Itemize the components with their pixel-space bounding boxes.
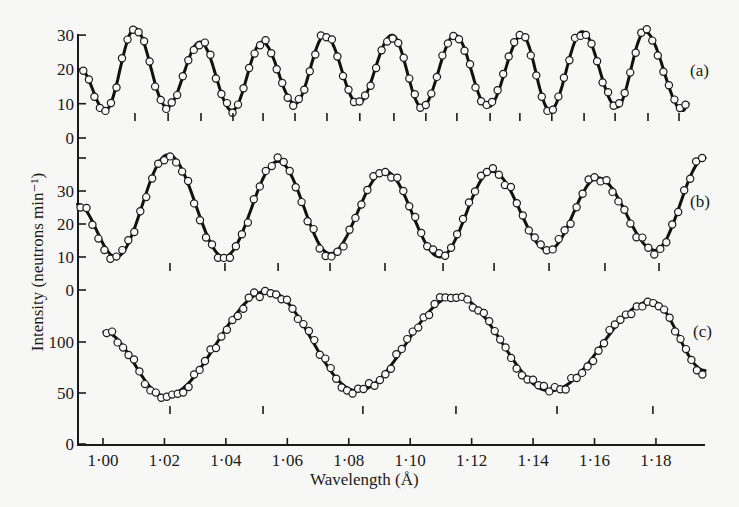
data-point bbox=[616, 100, 623, 107]
data-point bbox=[196, 217, 203, 224]
data-point bbox=[561, 227, 568, 234]
panel-label-c: (c) bbox=[693, 322, 712, 341]
data-point bbox=[124, 36, 131, 43]
data-point bbox=[444, 40, 451, 47]
data-point bbox=[268, 50, 275, 57]
data-point bbox=[202, 234, 209, 241]
data-point bbox=[464, 296, 471, 303]
trace-c bbox=[103, 287, 706, 414]
data-point bbox=[605, 89, 612, 96]
data-point bbox=[600, 340, 607, 347]
data-point bbox=[665, 82, 672, 89]
y-axis-title: Intensity (neutrons min⁻¹) bbox=[28, 173, 47, 351]
data-point bbox=[661, 306, 668, 313]
data-point bbox=[244, 219, 251, 226]
data-point bbox=[599, 79, 606, 86]
data-point bbox=[280, 158, 287, 165]
data-point bbox=[531, 234, 538, 241]
data-point bbox=[682, 101, 689, 108]
traces bbox=[77, 26, 706, 414]
data-point bbox=[256, 183, 263, 190]
data-point bbox=[406, 75, 413, 82]
data-point bbox=[609, 188, 616, 195]
data-point bbox=[304, 218, 311, 225]
data-point bbox=[113, 253, 120, 260]
x-tick-label: 1·16 bbox=[579, 451, 610, 470]
x-tick-label: 1·00 bbox=[87, 451, 118, 470]
data-point bbox=[387, 365, 394, 372]
data-point bbox=[567, 220, 574, 227]
data-point bbox=[163, 105, 170, 112]
data-point bbox=[621, 89, 628, 96]
data-point bbox=[262, 37, 269, 44]
data-point bbox=[582, 31, 589, 38]
data-point bbox=[212, 344, 219, 351]
data-point bbox=[672, 328, 679, 335]
data-point bbox=[141, 381, 148, 388]
data-point bbox=[251, 50, 258, 57]
data-point bbox=[699, 371, 706, 378]
data-point bbox=[500, 70, 507, 77]
data-point bbox=[207, 51, 214, 58]
data-point bbox=[173, 159, 180, 166]
data-point bbox=[513, 365, 520, 372]
data-point bbox=[352, 214, 359, 221]
data-point bbox=[125, 237, 132, 244]
x-tick-label: 1·02 bbox=[149, 451, 180, 470]
data-point bbox=[677, 336, 684, 343]
data-point bbox=[89, 221, 96, 228]
data-point bbox=[527, 52, 534, 59]
y-tick-label: 10 bbox=[57, 95, 74, 114]
data-point bbox=[246, 64, 253, 71]
y-tick-label: 100 bbox=[49, 333, 75, 352]
data-point bbox=[431, 300, 438, 307]
data-point bbox=[364, 186, 371, 193]
data-point bbox=[137, 208, 144, 215]
data-point bbox=[298, 199, 305, 206]
data-point bbox=[643, 26, 650, 33]
data-point bbox=[312, 51, 319, 58]
data-point bbox=[191, 200, 198, 207]
data-point bbox=[497, 336, 504, 343]
y-tick-label: 30 bbox=[57, 182, 74, 201]
data-point bbox=[306, 68, 313, 75]
data-point bbox=[606, 327, 613, 334]
x-tick-label: 1·10 bbox=[395, 451, 426, 470]
data-point bbox=[669, 221, 676, 228]
data-point bbox=[688, 356, 695, 363]
x-tick-label: 1·06 bbox=[272, 451, 303, 470]
data-point bbox=[382, 168, 389, 175]
data-point bbox=[179, 168, 186, 175]
data-point bbox=[91, 93, 98, 100]
data-point bbox=[486, 318, 493, 325]
data-point bbox=[340, 243, 347, 250]
data-point bbox=[454, 231, 461, 238]
data-point bbox=[508, 354, 515, 361]
data-point bbox=[522, 34, 529, 41]
data-point bbox=[289, 305, 296, 312]
data-point bbox=[537, 241, 544, 248]
data-point bbox=[654, 52, 661, 59]
data-point bbox=[406, 203, 413, 210]
x-tick-label: 1·14 bbox=[517, 451, 549, 470]
data-point bbox=[418, 229, 425, 236]
data-point bbox=[422, 101, 429, 108]
data-point bbox=[141, 38, 148, 45]
data-point bbox=[627, 220, 634, 227]
data-point bbox=[632, 49, 639, 56]
panel-label-a: (a) bbox=[690, 61, 709, 80]
y-tick-label: 50 bbox=[57, 384, 74, 403]
fit-curve bbox=[78, 155, 706, 257]
data-point bbox=[560, 74, 567, 81]
data-point bbox=[573, 204, 580, 211]
data-point bbox=[682, 346, 689, 353]
data-point bbox=[645, 244, 652, 251]
data-point bbox=[218, 90, 225, 97]
data-point bbox=[113, 84, 120, 91]
data-point bbox=[286, 167, 293, 174]
data-point bbox=[305, 327, 312, 334]
data-point bbox=[201, 357, 208, 364]
data-point bbox=[404, 336, 411, 343]
data-point bbox=[322, 355, 329, 362]
data-point bbox=[185, 57, 192, 64]
